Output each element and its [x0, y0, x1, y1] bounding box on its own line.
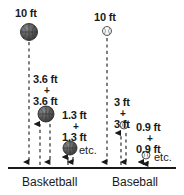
basketball-bounce-2-bottom: 1.3 ft [62, 132, 86, 143]
basketball-bounce-2-top: 1.3 ft [62, 110, 86, 121]
basketball-bounce-1-top: 3.6 ft [33, 74, 57, 85]
basketball-ball-3 [63, 141, 77, 155]
bounce-height-diagram: 10 ft 3.6 ft + 3.6 ft 1.3 ft + 1.3 ft et… [0, 0, 184, 195]
baseball-ball-1 [103, 27, 112, 36]
basketball-drop-label: 10 ft [15, 8, 37, 19]
baseball-bounce-1-bottom: 3 ft [114, 119, 130, 130]
baseball-drop-label: 10 ft [94, 12, 116, 23]
baseball-bounce-2-top: 0.9 ft [136, 122, 160, 133]
baseball-bounce-1-top: 3 ft [114, 97, 130, 108]
diagram-vector-layer [0, 0, 184, 195]
baseball-etc-label: etc. [154, 152, 172, 163]
axis-label-basketball: Basketball [22, 176, 77, 188]
basketball-bounce-1-bottom: 3.6 ft [33, 96, 57, 107]
basketball-ball-1 [21, 24, 38, 41]
basketball-ball-2 [38, 106, 54, 122]
basketball-etc-label: etc. [79, 145, 97, 156]
axis-label-baseball: Baseball [112, 176, 158, 188]
